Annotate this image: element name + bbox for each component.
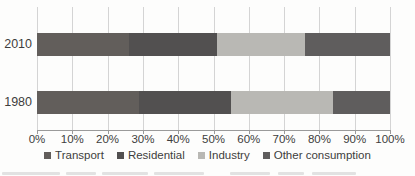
legend-label-other-consumption: Other consumption: [274, 149, 371, 161]
bar-2010: [37, 33, 390, 56]
legend-item-industry: Industry: [198, 149, 250, 161]
x-tick-label-100%: 100%: [375, 133, 404, 145]
caption-smudge-4: [230, 172, 270, 175]
caption-smudge-6: [312, 172, 356, 175]
bar-segment-1980-other-consumption: [333, 91, 389, 114]
caption-smudge-1: [66, 172, 96, 175]
x-tick-label-40%: 40%: [167, 133, 190, 145]
bar-segment-2010-transport: [37, 33, 129, 56]
legend: TransportResidentialIndustryOther consum…: [0, 149, 415, 161]
caption-smudge-5: [278, 172, 304, 175]
caption-smudge-3: [154, 172, 204, 175]
cropped-caption-remnant: [0, 170, 415, 176]
x-tick-label-70%: 70%: [273, 133, 296, 145]
legend-label-residential: Residential: [128, 149, 185, 161]
x-tick-label-10%: 10%: [61, 133, 84, 145]
bar-segment-1980-transport: [37, 91, 139, 114]
category-label-2010: 2010: [0, 33, 32, 56]
gridline-100%: [390, 7, 391, 130]
legend-label-transport: Transport: [55, 149, 104, 161]
bar-segment-2010-residential: [129, 33, 217, 56]
legend-marker-icon-transport: [44, 152, 51, 159]
category-label-1980: 1980: [0, 91, 32, 114]
x-tick-label-50%: 50%: [202, 133, 225, 145]
x-tick-label-60%: 60%: [237, 133, 260, 145]
bar-segment-2010-industry: [217, 33, 305, 56]
legend-marker-icon-residential: [117, 152, 124, 159]
legend-item-other-consumption: Other consumption: [263, 149, 371, 161]
bar-1980: [37, 91, 390, 114]
bar-segment-2010-other-consumption: [305, 33, 390, 56]
x-tick-label-80%: 80%: [308, 133, 331, 145]
legend-item-transport: Transport: [44, 149, 104, 161]
bar-segment-1980-residential: [139, 91, 231, 114]
x-tick-label-30%: 30%: [131, 133, 154, 145]
plot-area: [37, 7, 390, 130]
stacked-bar-chart-figure: 20101980 0%10%20%30%40%50%60%70%80%90%10…: [0, 0, 415, 176]
x-tick-label-0%: 0%: [29, 133, 46, 145]
legend-marker-icon-industry: [198, 152, 205, 159]
bar-segment-1980-industry: [231, 91, 333, 114]
legend-item-residential: Residential: [117, 149, 185, 161]
x-tick-label-90%: 90%: [343, 133, 366, 145]
x-tick-label-20%: 20%: [96, 133, 119, 145]
caption-smudge-2: [102, 172, 148, 175]
caption-smudge-0: [2, 172, 60, 175]
legend-marker-icon-other-consumption: [263, 152, 270, 159]
legend-label-industry: Industry: [209, 149, 250, 161]
